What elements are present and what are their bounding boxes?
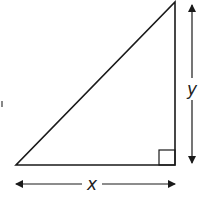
right-triangle-diagram: y x: [0, 0, 213, 201]
x-label: x: [86, 174, 98, 194]
triangle-shape: [16, 2, 175, 165]
stray-mark: [1, 101, 3, 107]
y-label: y: [186, 79, 198, 99]
right-angle-marker: [159, 150, 175, 165]
